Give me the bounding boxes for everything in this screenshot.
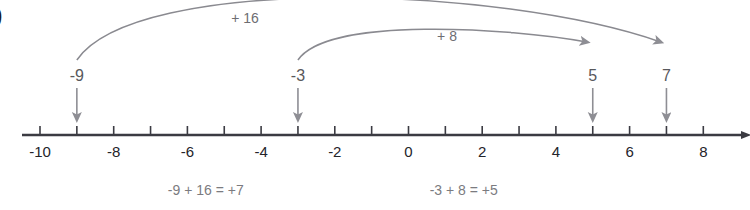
tick-label: 8 <box>699 144 707 159</box>
jump-arcs <box>77 0 661 60</box>
value-markers <box>77 88 667 119</box>
jump-amount-label: + 16 <box>231 11 259 25</box>
jump-amount-label: + 8 <box>437 29 457 43</box>
tick-label: -10 <box>29 144 51 159</box>
tick-label: 2 <box>478 144 486 159</box>
tick-label: -2 <box>328 144 341 159</box>
tick-label: 4 <box>552 144 560 159</box>
marker-label: -3 <box>291 68 305 84</box>
equation-caption: -3 + 8 = +5 <box>430 183 498 197</box>
number-line-figure: ) -10-8-6-4-202468 -9-357 + 16+ 8 -9 + 1… <box>0 0 750 210</box>
tick-label: -8 <box>107 144 120 159</box>
tick-label: 6 <box>625 144 633 159</box>
marker-label: -9 <box>70 68 84 84</box>
marker-label: 7 <box>662 68 671 84</box>
tick-label: -4 <box>254 144 267 159</box>
number-line-canvas <box>0 0 750 210</box>
axis-ticks <box>40 126 703 134</box>
jump-arc <box>77 0 661 60</box>
equation-caption: -9 + 16 = +7 <box>168 183 244 197</box>
marker-label: 5 <box>588 68 597 84</box>
tick-label: -6 <box>181 144 194 159</box>
tick-label: 0 <box>404 144 412 159</box>
